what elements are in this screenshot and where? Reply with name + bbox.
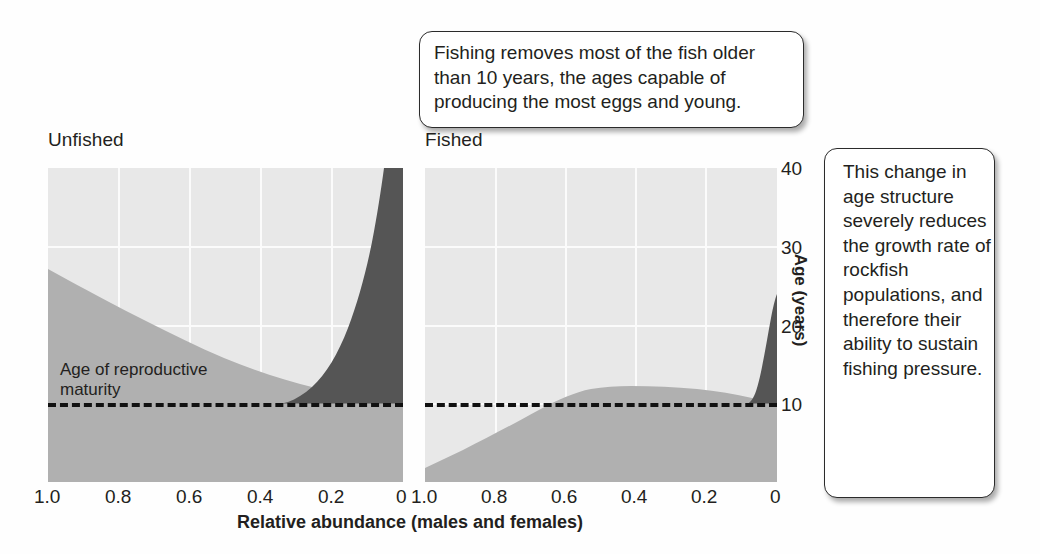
y-axis-title: Age (years)	[790, 254, 810, 347]
xtick-fished-6: 0	[770, 486, 781, 508]
callout-top-text: Fishing removes most of the fish older t…	[434, 41, 789, 115]
callout-top: Fishing removes most of the fish older t…	[419, 31, 804, 128]
chart-unfished: Age of reproductive maturity	[48, 168, 403, 482]
xtick-fished-1: 1.0	[411, 486, 437, 508]
maturity-line-unfished	[48, 403, 403, 407]
xtick-unfished-3: 0.6	[176, 486, 202, 508]
area-fill-fished	[425, 168, 777, 482]
xtick-unfished-4: 0.4	[247, 486, 273, 508]
xtick-fished-5: 0.2	[691, 486, 717, 508]
xtick-fished-3: 0.6	[551, 486, 577, 508]
maturity-line-fished	[425, 403, 777, 407]
area-fill-unfished	[48, 168, 403, 482]
callout-right-text: This change in age structure severely re…	[843, 160, 994, 381]
xtick-unfished-2: 0.8	[105, 486, 131, 508]
xtick-unfished-5: 0.2	[318, 486, 344, 508]
chart-fished	[425, 168, 777, 482]
xtick-fished-2: 0.8	[481, 486, 507, 508]
maturity-annotation: Age of reproductive maturity	[60, 360, 207, 400]
panel-title-fished: Fished	[425, 129, 483, 151]
xtick-unfished-1: 1.0	[34, 486, 60, 508]
ytick-40: 40	[781, 158, 802, 180]
xtick-fished-4: 0.4	[621, 486, 647, 508]
figure-canvas: Unfished Fished Age of reproductive matu…	[0, 0, 1040, 554]
ytick-10: 10	[781, 394, 802, 416]
x-axis-title: Relative abundance (males and females)	[0, 512, 820, 533]
panel-title-unfished: Unfished	[48, 129, 124, 151]
xtick-unfished-6: 0	[396, 486, 407, 508]
callout-right: This change in age structure severely re…	[824, 148, 995, 498]
